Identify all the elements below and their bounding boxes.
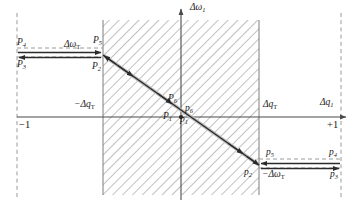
threshold-label-pos-delta-q-T: ΔqT — [263, 100, 277, 110]
point-label-P5: P5 — [93, 36, 102, 46]
point-label-p1: p1 — [180, 115, 188, 125]
point-label-p6: p6 — [185, 104, 193, 114]
point-label-p4: p4 — [329, 148, 337, 158]
point-label-P6: P6 — [168, 94, 177, 104]
point-label-p2: p2 — [244, 168, 252, 178]
phase-plane-figure: Δω1 Δq1 −1 +1 −ΔqT ΔqT ΔωT −ΔωT P4 P3 P5… — [0, 0, 359, 211]
diagram-canvas — [0, 0, 359, 211]
point-label-P4: P4 — [17, 38, 26, 48]
horizontal-axis-label: Δq1 — [320, 98, 334, 108]
point-label-P3: P3 — [17, 60, 26, 70]
vertical-axis-label: Δω1 — [190, 3, 206, 13]
point-label-p3: p3 — [330, 170, 338, 180]
axis-tick-minus-one: −1 — [19, 120, 30, 131]
threshold-label-neg-delta-omega-T: −ΔωT — [262, 170, 285, 180]
point-label-P2: P2 — [92, 62, 101, 72]
axis-tick-plus-one: +1 — [327, 120, 338, 131]
point-label-p5: p5 — [266, 148, 274, 158]
threshold-label-pos-delta-omega-T: ΔωT — [64, 40, 80, 50]
point-label-P1: P1 — [163, 112, 172, 122]
threshold-label-neg-delta-q-T: −ΔqT — [74, 100, 95, 110]
